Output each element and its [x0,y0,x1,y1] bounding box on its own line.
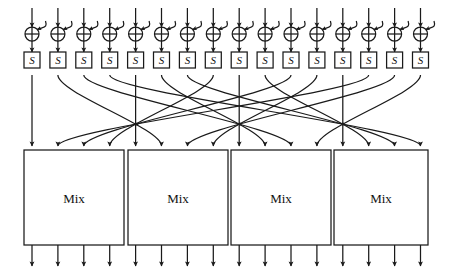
xor-node [206,27,220,41]
permutation-wire [265,75,369,146]
sbox-group: SSSSSSSSSSSSSSSS [24,52,429,68]
sbox-label: S [288,54,294,66]
mix-block: Mix [231,150,331,245]
round-key-input-hook [63,21,72,30]
permutation-wire [213,75,317,146]
xor-node [51,27,65,41]
mix-block-label: Mix [167,191,189,206]
xor-node [310,27,324,41]
permutation-wire [187,75,394,146]
sbox: S [309,52,325,68]
permutation-wire [58,75,162,146]
sbox: S [24,52,40,68]
xor-node [129,27,143,41]
sbox-label: S [211,54,217,66]
sbox-label: S [392,54,398,66]
xor-node [180,27,194,41]
permutation-crossing-nodes-group [136,123,345,126]
sbox: S [413,52,429,68]
sbox-label: S [55,54,61,66]
sbox-label: S [185,54,191,66]
xor-node [232,27,246,41]
sbox: S [283,52,299,68]
permutation-wire [110,75,214,146]
round-key-input-hook [400,21,409,30]
round-key-input-hook [270,21,279,30]
mix-block-label: Mix [63,191,85,206]
mix-blocks-group: MixMixMixMix [24,150,428,245]
sbox: S [76,52,92,68]
mix-block-label: Mix [270,191,292,206]
input-wires-group [32,8,421,27]
round-key-input-hook [141,21,150,30]
sbox-label: S [133,54,139,66]
sbox: S [387,52,403,68]
sbox: S [50,52,66,68]
xor-node [25,27,39,41]
sbox: S [205,52,221,68]
mix-block: Mix [334,150,428,245]
sbox-label: S [314,54,320,66]
round-key-input-hook [426,21,435,30]
spn-round-diagram: SSSSSSSSSSSSSSSS MixMixMixMix [0,0,451,273]
round-key-input-hook [219,21,228,30]
sbox-label: S [29,54,35,66]
xor-node [103,27,117,41]
round-key-input-hook [115,21,124,30]
output-wires-group [32,245,421,266]
permutation-crossing-node [136,123,139,126]
xor-node [362,27,376,41]
sbox-label: S [159,54,165,66]
sbox: S [128,52,144,68]
round-key-input-hook [374,21,383,30]
sbox-label: S [340,54,346,66]
round-key-input-hook [37,21,46,30]
permutation-crossing-node [239,123,242,126]
sbox: S [335,52,351,68]
sbox-label: S [366,54,372,66]
sbox: S [154,52,170,68]
sbox: S [231,52,247,68]
round-key-input-hook [193,21,202,30]
xor-node [284,27,298,41]
sbox-label: S [418,54,424,66]
xor-node [388,27,402,41]
permutation-crossing-node [342,123,345,126]
xor-node [258,27,272,41]
round-key-input-hook [348,21,357,30]
sbox: S [179,52,195,68]
diagram-canvas: SSSSSSSSSSSSSSSS MixMixMixMix [0,0,451,273]
sbox: S [102,52,118,68]
mix-block: Mix [24,150,124,245]
sbox-label: S [236,54,242,66]
mix-block: Mix [128,150,228,245]
xor-node [155,27,169,41]
round-key-input-hook [167,21,176,30]
round-key-input-hook [322,21,331,30]
xor-nodes-group [25,27,428,41]
permutation-wire [84,75,291,146]
sbox-label: S [107,54,113,66]
sbox-label: S [262,54,268,66]
xor-to-sbox-wires-group [32,41,421,52]
round-key-input-hook [296,21,305,30]
xor-node [414,27,428,41]
permutation-wires-group [32,75,421,146]
xor-node [336,27,350,41]
sbox: S [257,52,273,68]
sbox: S [361,52,377,68]
permutation-wire [58,75,369,146]
round-key-input-hook [244,21,253,30]
permutation-wire [317,75,421,146]
sbox-label: S [81,54,87,66]
mix-block-label: Mix [370,191,392,206]
xor-node [77,27,91,41]
round-key-input-hook [89,21,98,30]
